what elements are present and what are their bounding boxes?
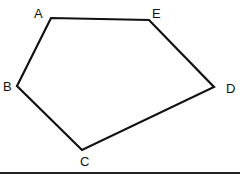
vertex-label-e: E xyxy=(152,6,161,21)
vertex-label-c: C xyxy=(80,154,89,169)
vertex-label-a: A xyxy=(34,6,43,21)
vertex-label-d: D xyxy=(226,81,235,96)
pentagon-shape xyxy=(17,18,214,150)
vertex-label-b: B xyxy=(3,79,12,94)
pentagon-diagram: A E D C B xyxy=(0,0,240,178)
